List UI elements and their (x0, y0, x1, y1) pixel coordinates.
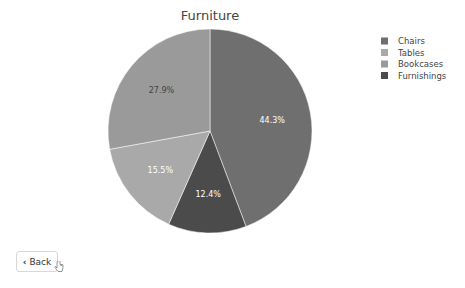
hand-cursor-icon (54, 261, 64, 273)
back-button[interactable]: ‹ Back (16, 251, 58, 272)
slice-label-chairs: 44.3% (260, 116, 286, 125)
back-button-label: Back (29, 257, 51, 267)
pie-slices: 44.3%12.4%15.5%27.9% (108, 29, 312, 233)
slice-label-tables: 15.5% (148, 166, 174, 175)
slice-label-furnishings: 12.4% (196, 190, 222, 199)
legend-swatch-tables[interactable] (381, 49, 388, 56)
legend-swatch-furnishings[interactable] (381, 72, 388, 79)
legend: ChairsTablesBookcasesFurnishings (381, 36, 447, 81)
pie-chart: Furniture 44.3%12.4%15.5%27.9% ChairsTab… (0, 0, 465, 245)
legend-label-furnishings[interactable]: Furnishings (398, 71, 447, 81)
legend-label-tables[interactable]: Tables (397, 48, 425, 58)
legend-swatch-chairs[interactable] (381, 38, 388, 45)
legend-label-bookcases[interactable]: Bookcases (398, 59, 444, 69)
slice-label-bookcases: 27.9% (149, 86, 175, 95)
chevron-left-icon: ‹ (23, 257, 27, 267)
legend-swatch-bookcases[interactable] (381, 61, 388, 68)
chart-title: Furniture (181, 8, 239, 23)
legend-label-chairs[interactable]: Chairs (398, 36, 425, 46)
